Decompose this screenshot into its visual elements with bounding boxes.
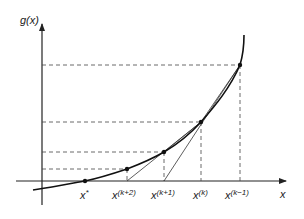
secant-lines xyxy=(127,65,240,181)
vertical-guides xyxy=(127,65,240,181)
label-x-k: x(k) xyxy=(192,188,208,201)
horizontal-guides xyxy=(42,65,240,169)
label-x-k-minus-1: x(k−1) xyxy=(224,188,249,201)
label-x-k-plus-1: x(k+1) xyxy=(150,188,175,201)
curve-g xyxy=(33,35,244,190)
iteration-points xyxy=(83,63,242,183)
label-x-k-plus-2: x(k+2) xyxy=(111,188,136,201)
x-axis-label: x xyxy=(279,188,286,200)
y-axis-label: g(x) xyxy=(20,14,39,26)
secant-method-diagram: g(x) x x* x(k+2) x(k+1) x(k) x(k−1) xyxy=(0,0,304,219)
label-x-star: x* xyxy=(79,188,90,201)
